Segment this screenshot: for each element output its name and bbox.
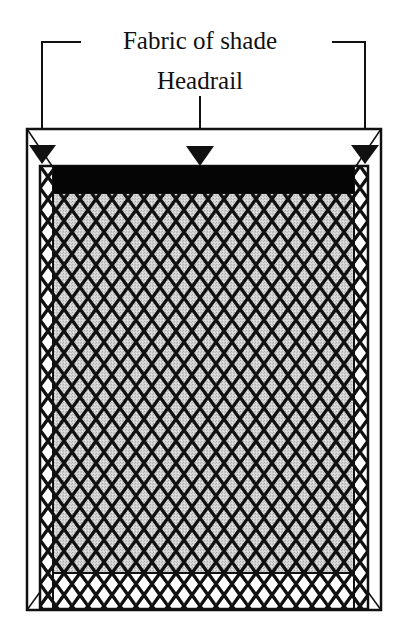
fabric-label: Fabric of shade bbox=[123, 27, 277, 54]
headrail bbox=[53, 166, 354, 193]
window-shade-diagram: Fabric of shade Headrail bbox=[0, 0, 401, 642]
headrail-label: Headrail bbox=[157, 67, 243, 94]
mesh-net bbox=[40, 166, 368, 609]
